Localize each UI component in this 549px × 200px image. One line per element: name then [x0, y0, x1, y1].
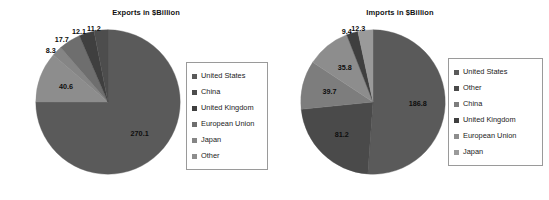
legend-swatch-icon: [454, 102, 459, 107]
legend-item[interactable]: United Kingdom: [454, 112, 536, 128]
legend-item[interactable]: Other: [192, 148, 261, 164]
legend-item-label: United States: [463, 68, 507, 75]
pie-slice-value-label: 35.8: [338, 63, 352, 72]
legend-swatch-icon: [454, 118, 459, 123]
legend-swatch-icon: [192, 154, 197, 159]
legend-item-label: Japan: [463, 148, 483, 155]
legend-swatch-icon: [192, 106, 197, 111]
legend-item-label: Other: [463, 84, 481, 91]
pie-slice-value-label: 12.3: [351, 24, 365, 33]
legend-swatch-icon: [454, 150, 459, 155]
pie-slice-value-label: 39.7: [322, 87, 336, 96]
imports-pie-svg: 186.881.239.735.89.412.3: [297, 26, 449, 178]
legend-swatch-icon: [192, 122, 197, 127]
imports-chart-panel: Imports in $Billion 186.881.239.735.89.4…: [275, 0, 549, 200]
legend-item[interactable]: European Union: [454, 128, 536, 144]
legend-item[interactable]: United Kingdom: [192, 100, 261, 116]
imports-legend: United StatesOtherChinaUnited KingdomEur…: [448, 58, 543, 166]
legend-swatch-icon: [454, 70, 459, 75]
legend-item-label: Other: [201, 152, 219, 159]
legend-swatch-icon: [454, 134, 459, 139]
legend-item-label: United Kingdom: [201, 104, 254, 111]
imports-chart-title: Imports in $Billion: [275, 8, 549, 17]
pie-slice-value-label: 81.2: [335, 130, 349, 139]
exports-pie-wrapper: 270.140.68.317.712.111.2: [32, 26, 184, 178]
legend-item-label: United States: [201, 72, 245, 79]
legend-item-label: China: [463, 100, 482, 107]
pie-slice-value-label: 11.2: [87, 24, 101, 33]
imports-pie-wrapper: 186.881.239.735.89.412.3: [297, 26, 449, 178]
legend-item[interactable]: United States: [454, 64, 536, 80]
legend-item[interactable]: China: [192, 84, 261, 100]
legend-item[interactable]: European Union: [192, 116, 261, 132]
exports-pie-svg: 270.140.68.317.712.111.2: [32, 26, 184, 178]
legend-item[interactable]: United States: [192, 68, 261, 84]
pie-slice-value-label: 40.6: [59, 82, 73, 91]
legend-item-label: Japan: [201, 136, 221, 143]
exports-chart-title: Exports in $Billion: [0, 8, 274, 17]
legend-item[interactable]: Japan: [454, 144, 536, 160]
legend-item[interactable]: China: [454, 96, 536, 112]
legend-item[interactable]: Other: [454, 80, 536, 96]
pie-slice-value-label: 270.1: [131, 129, 149, 138]
pie-slice-value-label: 12.1: [72, 27, 86, 36]
pie-slice-value-label: 17.7: [55, 35, 69, 44]
pie-slice-value-label: 8.3: [46, 46, 56, 55]
legend-swatch-icon: [454, 86, 459, 91]
charts-canvas: Exports in $Billion 270.140.68.317.712.1…: [0, 0, 549, 200]
legend-item-label: United Kingdom: [463, 116, 516, 123]
exports-chart-panel: Exports in $Billion 270.140.68.317.712.1…: [0, 0, 274, 200]
legend-item-label: European Union: [463, 132, 516, 139]
legend-swatch-icon: [192, 74, 197, 79]
legend-item-label: European Union: [201, 120, 254, 127]
legend-swatch-icon: [192, 138, 197, 143]
legend-item[interactable]: Japan: [192, 132, 261, 148]
legend-item-label: China: [201, 88, 220, 95]
pie-slice[interactable]: [368, 30, 445, 174]
exports-legend: United StatesChinaUnited KingdomEuropean…: [186, 62, 268, 170]
legend-swatch-icon: [192, 90, 197, 95]
pie-slice-value-label: 186.8: [409, 99, 427, 108]
